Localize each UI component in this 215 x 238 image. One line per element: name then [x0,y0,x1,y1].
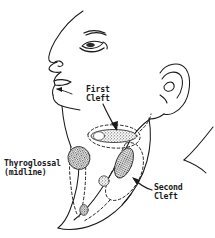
shoulder-line [184,127,213,173]
eye [80,41,107,51]
label-thyroglossal-line2: (midline) [4,167,47,177]
first-cleft-leader-arrow [103,104,118,131]
mouth-pointer [56,87,72,94]
second-cleft-cyst [111,145,138,181]
chin [53,95,80,110]
figure-canvas: FirstCleft Thyroglossal(midline) SecondC… [0,0,215,238]
label-second-cleft: SecondCleft [154,183,182,200]
forehead-and-nose-profile [49,11,83,72]
label-thyroglossal: Thyroglossal(midline) [4,159,61,176]
label-first-cleft: FirstCleft [86,85,110,102]
anatomical-illustration [0,0,215,238]
nostril [55,61,63,66]
accessory-nodule-lower [80,205,88,216]
label-second-cleft-line2: Cleft [154,191,178,201]
accessory-nodule-upper [99,176,109,186]
label-first-cleft-line2: Cleft [86,93,110,103]
eyebrow [84,31,106,35]
ear [150,64,190,119]
first-cleft-cyst [91,130,137,143]
